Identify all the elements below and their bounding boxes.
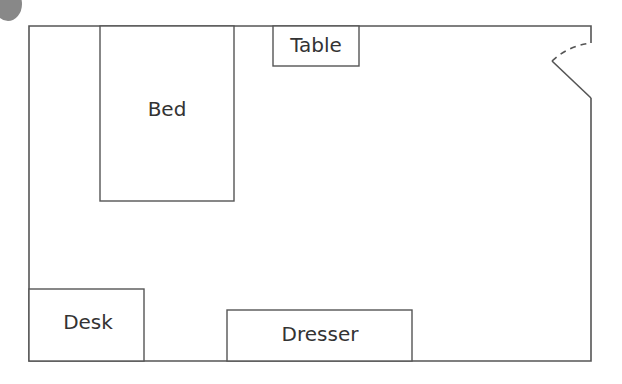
bed-label: Bed [148,97,187,121]
corner-blob [0,0,22,21]
door-leaf [552,61,591,98]
dresser-label: Dresser [282,322,360,346]
table-label: Table [289,33,342,57]
door-swing-arc [552,43,591,61]
bed: Bed [100,26,234,201]
desk: Desk [29,289,144,361]
table: Table [273,26,359,66]
desk-label: Desk [63,310,113,334]
dresser: Dresser [227,310,412,361]
floor-plan: Bed Table Desk Dresser [0,0,622,384]
